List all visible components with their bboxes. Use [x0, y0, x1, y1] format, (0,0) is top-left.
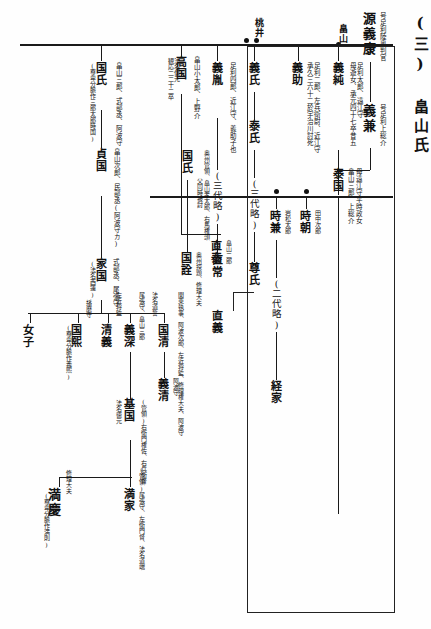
- yoshikiyo-name: 義清: [157, 378, 168, 402]
- motokuni-name: 基国: [123, 398, 134, 422]
- kuniuji-awa-note-a: 畠山三郎、式部丞、阿波守: [114, 62, 121, 146]
- drop-kiyoyoshi: [108, 313, 109, 323]
- drop-iekuni-children: [101, 300, 102, 314]
- sadakuni-name: 貞国: [95, 148, 106, 172]
- mitsuyoshi-note-b: (尊卑分脈作満則): [42, 492, 49, 548]
- naoyasu-name: 直泰: [210, 240, 221, 264]
- yoshifuka-name: 義深: [123, 324, 134, 348]
- mitsuie-name: 満家: [123, 488, 134, 512]
- genealogy-page: (三) 畠山氏 号足利陸奥判官 源義康 号足利上総介 義兼 畠山 桃井 足利太郎…: [0, 0, 431, 629]
- connector-kunikiyo-yoshikiyo: [164, 352, 165, 378]
- yoshikiyo-note: 阿波守: [171, 378, 178, 396]
- kiyoyoshi-name: 清義: [100, 324, 111, 348]
- yoshitane-note: 足利四郎、近江守、義助子也: [228, 62, 235, 153]
- node-dot-momonoi: [254, 38, 259, 43]
- kunikiyo-note-b: 法名道誓: [150, 292, 157, 316]
- kuniuji-awa-name: 国氏: [95, 62, 106, 86]
- naoyasu-note: 畠山二郎: [224, 240, 231, 264]
- drop-joshi: [30, 313, 31, 323]
- drop-kunihiro: [78, 313, 79, 323]
- drop-takakuni: [181, 45, 182, 57]
- mitsuyoshi-note-a: 修理大夫: [64, 470, 71, 494]
- drop-yoshifuka: [130, 313, 131, 323]
- takakuni-note-a: 畠山小太郎、上野介: [192, 56, 199, 119]
- connector-yoshifuka-motokuni: [130, 352, 131, 400]
- yoshifuka-note-a: 尾張守、畠山三郎: [137, 292, 144, 340]
- kunikiyo-name: 国清: [157, 324, 168, 348]
- drop-kuniuji-awa: [101, 45, 102, 61]
- page-title: (三) 畠山氏: [412, 14, 427, 156]
- connector-kuniuji-kuniakira: [187, 180, 188, 252]
- tadayoshi-name: 直義: [211, 310, 222, 334]
- chart-frame-box: [247, 46, 395, 613]
- connector-kuniuji-sadakuni: [101, 110, 102, 148]
- connector-yoshitane-ellipsis: [217, 118, 218, 170]
- iekuni-name: 家国: [95, 258, 106, 282]
- kuniuji-oshu-note-a: 奥州管領、畠山孝太郎、右馬権頭: [202, 150, 209, 240]
- connector-sadakuni-iekuni: [101, 196, 102, 258]
- kuniuji-awa-note-b: (尊卑分脈作三郎太郎時国): [88, 62, 95, 142]
- drop-kunikiyo: [164, 313, 165, 323]
- kuniakira-note: 奥州探題、修理大夫: [194, 252, 201, 306]
- kunihiro-note-a: 播磨守: [84, 300, 91, 318]
- kiyoyoshi-note: 左近将監: [114, 292, 121, 316]
- kunihiro-note-b: (尊卑分脈作義煕): [64, 324, 71, 380]
- connector-motokuni-down: [130, 440, 131, 478]
- iekuni-note-b: (法名西蓮): [88, 260, 95, 298]
- kunikiyo-note-a: 関東執事、阿波次郎、左近将監、修理権大夫、阿波守: [176, 292, 183, 436]
- kuniuji-oshu-name: 国氏: [181, 150, 192, 174]
- joshi-name: 女子: [22, 324, 33, 348]
- drop-mitsuyoshi: [59, 477, 60, 487]
- mitsuie-note: (管領)尾張守、左衛門督、法名道端: [137, 466, 144, 570]
- kuniuji-oshu-note-b: 父同時被討: [195, 178, 202, 208]
- kuniakira-name: 国詮: [180, 252, 191, 276]
- motokuni-note-b: 法名徳元: [114, 400, 121, 424]
- drop-yoshitane: [217, 45, 218, 61]
- sadakuni-note: 畠山次郎、民部丞(阿波守カ): [112, 148, 119, 248]
- takakuni-note-c: 観応二二十二卒: [166, 58, 173, 100]
- node-dot-momonoi-2: [244, 38, 249, 43]
- hatakeyama-marker: 畠山: [338, 24, 347, 44]
- drop-mitsuie: [130, 477, 131, 487]
- momonoi-marker: 桃井: [254, 18, 263, 38]
- yoshitane-name: 義胤: [211, 62, 222, 86]
